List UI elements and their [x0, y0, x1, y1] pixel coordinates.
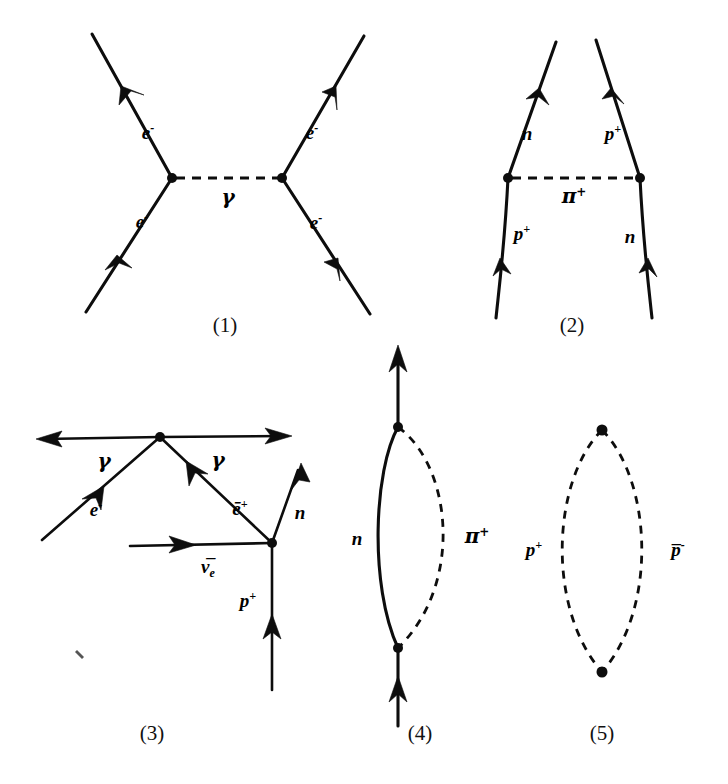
diagram-5-group: p+ p̅- (5)	[524, 425, 685, 746]
diagram-4-vertex-top	[393, 422, 403, 432]
diagram-2-label-top-left: n	[522, 123, 533, 144]
diagram-3-label-positron: ē+	[232, 497, 247, 519]
diagram-3-antineutrino-line	[130, 543, 272, 546]
diagram-3-vertex-top	[155, 432, 165, 442]
diagram-2-vertex-left	[503, 173, 513, 183]
diagram-5-vertex-bottom	[597, 667, 608, 678]
diagram-4-label-neutron: n	[352, 528, 363, 549]
diagram-3-group: γ γ e- ē+ n ν̅e p+ (3)	[36, 428, 310, 745]
diagram-3-vertex-bottom	[267, 538, 277, 548]
diagram-1-vertex-left	[167, 173, 177, 183]
diagram-2-vertex-right	[635, 173, 645, 183]
diagram-1-leg-bottom-right	[282, 178, 370, 314]
diagram-2-leg-top-left	[508, 42, 556, 178]
diagram-2-label-pion: π+	[561, 184, 587, 208]
diagram-1-label-photon: γ	[221, 185, 235, 209]
diagram-5-caption: (5)	[590, 721, 615, 745]
diagram-2-leg-bottom-left	[496, 178, 508, 318]
diagram-3-photon-line-right	[160, 436, 285, 437]
diagram-1-leg-top-left	[92, 34, 172, 178]
diagram-1-vertex-right	[277, 173, 287, 183]
diagram-1-arrow-bottom-right	[324, 258, 340, 281]
diagram-1-label-bottom-right: e-	[310, 211, 322, 233]
diagram-3-photon-line-left	[44, 437, 160, 439]
diagram-2-label-bottom-right: n	[625, 226, 636, 247]
diagram-5-proton-arc	[562, 430, 602, 672]
diagram-2-caption: (2)	[560, 313, 585, 337]
diagram-1-leg-top-right	[282, 36, 364, 178]
diagram-4-pion-arc	[398, 427, 443, 648]
diagram-4-label-pion: π+	[464, 524, 490, 548]
diagram-1-arrow-bottom-left	[105, 255, 132, 270]
feynman-diagram-canvas: e- e- e- e- γ (1)	[0, 0, 728, 784]
diagram-5-antiproton-arc	[602, 430, 642, 672]
diagram-5-label-proton: p+	[524, 538, 543, 560]
diagram-1-label-bottom-left: e-	[136, 210, 148, 232]
diagram-1-label-top-right: e-	[306, 121, 318, 143]
diagram-2-leg-top-right	[596, 40, 640, 178]
diagram-1-group: e- e- e- e- γ (1)	[86, 34, 370, 337]
diagram-2-arrow-top-right	[602, 88, 624, 104]
diagram-3-label-antineutrino: ν̅e	[201, 556, 216, 580]
diagram-1-leg-bottom-left	[86, 178, 172, 312]
diagram-4-neutron-arc	[378, 427, 398, 648]
diagram-3-label-electron: e-	[90, 498, 102, 520]
diagram-4-group: n π+ (4)	[352, 345, 490, 745]
diagram-3-label-photon-left: γ	[97, 449, 111, 473]
feynman-figure: e- e- e- e- γ (1)	[0, 0, 728, 784]
diagram-4-vertex-bottom	[393, 643, 403, 653]
diagram-3-label-proton: p+	[238, 589, 257, 611]
diagram-3-label-neutron: n	[295, 502, 306, 523]
diagram-5-vertex-top	[597, 425, 608, 436]
diagram-2-arrow-top-left	[526, 88, 549, 105]
diagram-3-print-speck	[75, 650, 84, 659]
diagram-1-caption: (1)	[213, 313, 238, 337]
diagram-2-label-top-right: p+	[603, 122, 622, 144]
diagram-4-caption: (4)	[408, 721, 433, 745]
diagram-2-label-bottom-left: p+	[512, 222, 531, 244]
diagram-2-leg-bottom-right	[640, 178, 652, 318]
diagram-3-caption: (3)	[140, 721, 165, 745]
diagram-5-label-antiproton: p̅-	[669, 538, 685, 560]
diagram-2-group: n p+ p+ n π+ (2)	[493, 40, 657, 337]
diagram-3-label-photon-right: γ	[211, 448, 225, 472]
